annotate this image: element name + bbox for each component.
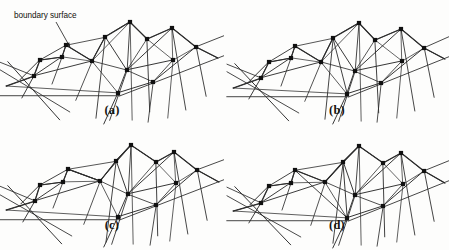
annotation-leader-line — [0, 0, 449, 250]
leader-arrowhead — [66, 42, 70, 47]
figure-canvas: (a) (b) (c) (d) boundary surface — [0, 0, 449, 250]
